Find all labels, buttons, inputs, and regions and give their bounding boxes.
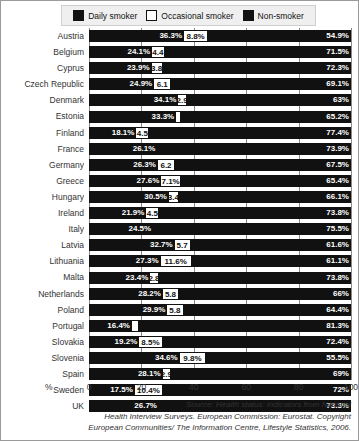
segment-daily-smoker: 28.1%: [89, 368, 163, 380]
category-label: Malta: [1, 269, 84, 285]
segment-occasional-smoker: 5.7: [175, 239, 190, 251]
segment-daily-smoker: 29.9%: [89, 304, 167, 316]
segment-daily-smoker-value: 34.1%: [154, 94, 177, 106]
segment-non-smoker-value: 55.5%: [326, 352, 349, 364]
category-label: Hungary: [1, 189, 84, 205]
segment-daily-smoker-value: 32.7%: [150, 239, 173, 251]
segment-daily-smoker-value: 28.1%: [138, 368, 161, 380]
category-label: Cyprus: [1, 60, 84, 76]
segment-non-smoker-value: 67.5%: [326, 159, 349, 171]
segment-non-smoker: 71.5%: [164, 46, 351, 58]
segment-non-smoker: 54.9%: [207, 30, 351, 42]
category-label: Finland: [1, 125, 84, 141]
category-label: Slovakia: [1, 334, 84, 350]
chart-row: Poland29.9%5.864.4%: [1, 302, 359, 318]
segment-daily-smoker-value: 19.2%: [115, 336, 138, 348]
stacked-bar: 24.5%75.5%: [89, 223, 351, 235]
segment-non-smoker: 73.9%: [157, 143, 351, 155]
segment-occasional-smoker: 7.1%: [161, 175, 180, 187]
segment-non-smoker: 73.8%: [158, 272, 351, 284]
segment-occasional-smoker-value: 2.9: [163, 369, 171, 380]
stacked-bar: 29.9%5.864.4%: [89, 304, 351, 316]
segment-non-smoker-value: 69.1%: [326, 78, 349, 90]
segment-occasional-smoker: 2.9: [178, 94, 186, 106]
segment-non-smoker: 72.3%: [162, 62, 351, 74]
segment-occasional-smoker: 8.8%: [184, 30, 207, 42]
stacked-bar: 34.6%9.8%55.5%: [89, 352, 351, 364]
filled-square-icon: [73, 10, 84, 21]
segment-daily-smoker: 24.9%: [89, 78, 154, 90]
segment-daily-smoker-value: 33.3%: [152, 111, 175, 123]
empty-square-icon: [146, 10, 157, 21]
segment-non-smoker-value: 63%: [333, 94, 349, 106]
segment-occasional-smoker-value: 6.2: [160, 160, 171, 171]
legend-item-occasional-smoker: Occasional smoker: [146, 10, 233, 21]
segment-occasional-smoker-value: 5.8: [169, 305, 180, 316]
segment-daily-smoker: 28.2%: [89, 288, 163, 300]
segment-occasional-smoker-value: 11.6%: [165, 256, 187, 267]
chart-row: Cyprus23.9%3.872.3%: [1, 60, 359, 76]
category-label: Czech Republic: [1, 76, 84, 92]
chart-row: Czech Republic24.9%6.169.1%: [1, 76, 359, 92]
segment-non-smoker-value: 65.2%: [326, 111, 349, 123]
segment-non-smoker: 81.3%: [138, 320, 351, 332]
segment-daily-smoker: 19.2%: [89, 336, 139, 348]
segment-occasional-smoker-value: 3.8: [152, 63, 162, 74]
axis-tick-label: 0: [87, 382, 92, 392]
stacked-bar: 23.4%2.873.8%: [89, 272, 351, 284]
segment-occasional-smoker: 4.4: [152, 46, 164, 58]
category-label: Germany: [1, 157, 84, 173]
segment-daily-smoker: 21.9%: [89, 207, 146, 219]
segment-non-smoker: 64.4%: [183, 304, 351, 316]
legend-item-non-smoker: Non-smoker: [243, 10, 304, 21]
chart-row: Italy24.5%75.5%: [1, 221, 359, 237]
stacked-bar: 32.7%5.761.6%: [89, 239, 351, 251]
segment-non-smoker: 61.1%: [191, 255, 351, 267]
axis-tick-label: 100: [344, 382, 358, 392]
segment-daily-smoker: 23.4%: [89, 272, 150, 284]
category-label: Latvia: [1, 237, 84, 253]
segment-non-smoker-value: 73.8%: [326, 272, 349, 284]
segment-daily-smoker: 23.9%: [89, 62, 152, 74]
chart-row: France26.1%73.9%: [1, 141, 359, 157]
category-label: Netherlands: [1, 286, 84, 302]
category-label: Estonia: [1, 108, 84, 124]
category-label: Austria: [1, 28, 84, 44]
category-label: Belgium: [1, 44, 84, 60]
segment-daily-smoker-value: 18.1%: [112, 127, 135, 139]
segment-non-smoker-value: 81.3%: [326, 320, 349, 332]
segment-daily-smoker: 26.3%: [89, 159, 158, 171]
legend-label-daily-smoker: Daily smoker: [88, 11, 137, 21]
chart-row: Ireland21.9%4.573.8%: [1, 205, 359, 221]
segment-non-smoker: 69%: [170, 368, 351, 380]
segment-daily-smoker-value: 16.4%: [107, 320, 130, 332]
segment-occasional-smoker: 6.1: [154, 78, 170, 90]
chart-row: Denmark34.1%2.963%: [1, 92, 359, 108]
segment-non-smoker-value: 65.4%: [326, 175, 349, 187]
segment-non-smoker: 55.5%: [205, 352, 351, 364]
chart-row: Greece27.6%7.1%65.4%: [1, 173, 359, 189]
chart-row: Lithuania27.3%11.6%61.1%: [1, 253, 359, 269]
segment-daily-smoker-value: 23.9%: [127, 62, 150, 74]
segment-occasional-smoker: 11.6%: [161, 255, 191, 267]
axis-unit-label: %: [45, 382, 53, 392]
segment-daily-smoker-value: 30.5%: [144, 191, 167, 203]
chart-row: Estonia33.3%65.2%: [1, 108, 359, 124]
segment-non-smoker: 77.4%: [148, 127, 351, 139]
filled-square-icon: [243, 10, 254, 21]
category-label: Poland: [1, 302, 84, 318]
stacked-bar: 28.2%5.866%: [89, 288, 351, 300]
segment-daily-smoker: 27.6%: [89, 175, 161, 187]
chart-x-axis: % 020406080100: [1, 382, 359, 396]
chart-row: Malta23.4%2.873.8%: [1, 269, 359, 285]
category-label: Lithuania: [1, 253, 84, 269]
segment-daily-smoker: 34.6%: [89, 352, 180, 364]
chart-page: Daily smoker Occasional smoker Non-smoke…: [0, 0, 359, 441]
category-label: Greece: [1, 173, 84, 189]
segment-non-smoker: 69.1%: [170, 78, 351, 90]
segment-non-smoker-value: 54.9%: [326, 30, 349, 42]
segment-non-smoker-value: 71.5%: [326, 46, 349, 58]
segment-daily-smoker: 24.1%: [89, 46, 152, 58]
segment-occasional-smoker: 3.8: [152, 62, 162, 74]
segment-daily-smoker: 33.3%: [89, 111, 176, 123]
